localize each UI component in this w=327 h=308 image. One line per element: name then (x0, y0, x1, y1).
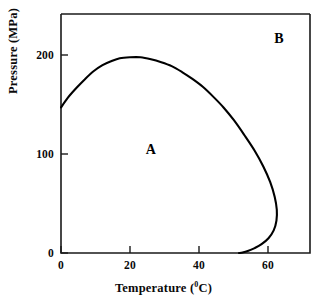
x-axis-title-tail: C) (198, 281, 212, 295)
x-axis-title: Temperature (0C) (0, 281, 327, 296)
axis-box (61, 14, 310, 253)
y-tick-label-0: 0 (20, 247, 54, 259)
x-tick-label-40: 40 (193, 259, 205, 271)
y-tick-label-200: 200 (20, 49, 54, 61)
phase-boundary-curve (61, 57, 277, 253)
x-tick-label-0: 0 (58, 259, 64, 271)
x-axis-title-head: Temperature ( (115, 281, 194, 295)
x-tick-label-20: 20 (124, 259, 136, 271)
y-axis-title: Pressure (MPa) (6, 0, 21, 94)
y-axis-ticks (61, 55, 68, 253)
x-axis-ticks (61, 246, 268, 253)
region-label-a: A (146, 142, 156, 158)
region-label-b: B (274, 31, 283, 47)
y-tick-label-100: 100 (20, 148, 54, 160)
plot-frame (61, 14, 310, 253)
chart-figure: 200 100 0 0 20 40 60 A B Temperature (0C… (0, 0, 327, 308)
x-tick-label-60: 60 (262, 259, 274, 271)
